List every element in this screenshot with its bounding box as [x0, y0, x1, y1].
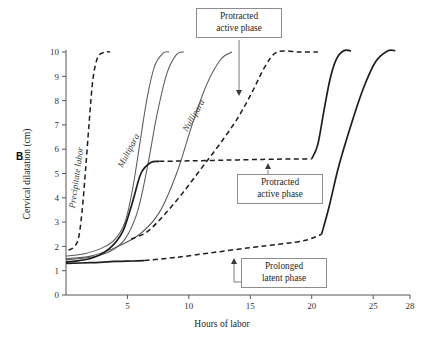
- curves-layer: [66, 50, 395, 263]
- curve-label-multipara: Multipara: [115, 132, 142, 170]
- y-tick-label: 5: [55, 169, 60, 179]
- x-tick-label: 15: [246, 301, 256, 311]
- y-tick-label: 1: [55, 266, 60, 276]
- annotation-protracted-active-mid: Protracted active phase: [237, 174, 323, 204]
- annotation-line-1: Prolonged: [247, 261, 321, 273]
- y-tick-label: 10: [50, 47, 60, 57]
- annotation-protracted-active-top: Protracted active phase: [196, 8, 282, 38]
- y-tick-label: 3: [55, 217, 60, 227]
- x-tick-label: 20: [307, 301, 317, 311]
- annotation-line-2: active phase: [202, 23, 276, 35]
- x-tick-label: 28: [406, 301, 416, 311]
- annotation-line-2: latent phase: [247, 273, 321, 285]
- y-tick-label: 6: [55, 144, 60, 154]
- y-tick-label: 4: [55, 193, 60, 203]
- annotation-line-1: Protracted: [202, 11, 276, 23]
- annotation-line-1: Protracted: [243, 177, 317, 189]
- y-axis-title: Cervical dilatation (cm): [22, 129, 33, 220]
- x-tick-label: 10: [184, 301, 194, 311]
- y-tick-label: 7: [55, 120, 60, 130]
- curve-prolonged-latent-dashed: [145, 234, 322, 260]
- x-axis-title: Hours of labor: [194, 319, 250, 329]
- curve-prolonged-latent-bold-rise: [322, 50, 396, 234]
- y-tick-label: 8: [55, 96, 60, 106]
- curve-nullipara: [66, 52, 232, 259]
- annotation-line-2: active phase: [243, 189, 317, 201]
- y-tick-label: 2: [55, 242, 60, 252]
- chart-canvas: 01234567891051015202528 Precipitate labo…: [0, 0, 423, 338]
- axes-layer: 01234567891051015202528: [50, 47, 415, 311]
- annotation-prolonged-latent: Prolonged latent phase: [241, 258, 327, 288]
- x-tick-label: 25: [369, 301, 379, 311]
- curve-protracted-active-dashed-plateau: [159, 159, 311, 161]
- curve-protracted-active-dashed-rise: [131, 51, 318, 239]
- figure-panel-b: 01234567891051015202528 Precipitate labo…: [0, 0, 423, 338]
- y-tick-label: 9: [55, 72, 60, 82]
- curve-labels-layer: Precipitate laborMultiparaNullipara: [67, 97, 207, 209]
- x-tick-label: 5: [125, 301, 130, 311]
- curve-label-nullipara: Nullipara: [180, 97, 207, 134]
- y-tick-label: 0: [55, 290, 60, 300]
